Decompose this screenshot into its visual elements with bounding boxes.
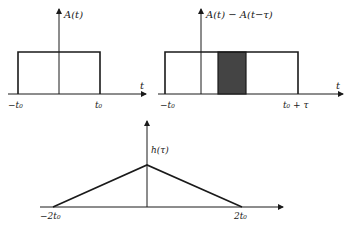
tick-label-neg-t0: −t₀ xyxy=(8,100,23,110)
tick-label-neg-2t0: −2t₀ xyxy=(40,211,61,221)
x-axis-label: t xyxy=(336,80,341,91)
y-axis-label: A(t) − A(t−τ) xyxy=(205,9,273,20)
figure: A(t) t −t₀ t₀ A(t) − A(t−τ) t −t₀ t₀ + τ… xyxy=(0,0,349,226)
tick-label-neg-t0: −t₀ xyxy=(160,100,175,110)
x-axis-label: t xyxy=(140,80,145,91)
panel-top-left: A(t) t −t₀ t₀ xyxy=(8,9,146,110)
panel-bottom: h(τ) −2t₀ 2t₀ xyxy=(40,121,283,221)
panel-top-right: A(t) − A(t−τ) t −t₀ t₀ + τ xyxy=(158,9,343,110)
tick-label-t0-plus-tau: t₀ + τ xyxy=(283,100,309,110)
y-axis-label: A(t) xyxy=(63,9,83,20)
tick-label-t0: t₀ xyxy=(95,100,103,110)
overlap-shaded-band xyxy=(218,52,246,94)
tick-label-2t0: 2t₀ xyxy=(233,211,247,221)
y-axis-label: h(τ) xyxy=(151,145,169,155)
